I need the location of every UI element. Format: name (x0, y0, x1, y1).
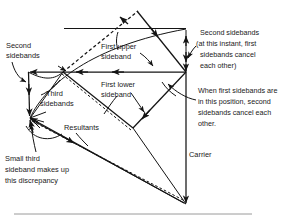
note-first-sidebands-line2: in this position, second (198, 97, 271, 106)
label-carrier: Carrier (189, 150, 212, 159)
note-second-sidebands-line3: sidebands cancel (200, 50, 256, 59)
note-first-sidebands-line3: sidebands cancel each (198, 108, 271, 117)
leader-second-sidebands-left (12, 62, 26, 82)
label-first-lower-sideband-line2: sideband (101, 90, 131, 99)
label-second-sidebands-left-line2: sidebands (6, 51, 40, 60)
label-small-third-line1: Small third (5, 154, 40, 163)
note-first-sidebands-line4: other. (198, 119, 216, 128)
note-first-sidebands-line1: When first sidebands are (198, 86, 278, 95)
label-third-sidebands-line2: sidebands (40, 99, 74, 108)
label-small-third-line2: sideband makes up (5, 165, 69, 174)
sideband-vector-diagram: Second sidebands First upper sideband Fi… (0, 0, 296, 219)
first-upper-sideband-vector (137, 11, 186, 72)
leader-first-lower-sideband (131, 93, 144, 112)
label-first-upper-sideband-line1: First upper (101, 42, 137, 51)
resultant-vector-secondary (30, 119, 186, 204)
label-second-sidebands-left-line1: Second (6, 41, 31, 50)
leader-first-upper-sideband (140, 53, 153, 66)
label-first-upper-sideband-line2: sideband (101, 52, 131, 61)
note-second-sidebands-line2: (at this instant, first (196, 39, 256, 48)
note-second-sidebands-line1: Second sidebands (200, 28, 260, 37)
mid-vertex-arc (28, 72, 63, 78)
label-resultants: Resultants (64, 123, 99, 132)
diagram-labels: Second sidebands First upper sideband Fi… (5, 28, 278, 185)
leader-second-sidebands-note (188, 46, 196, 58)
label-third-sidebands-line1: Third (46, 89, 63, 98)
first-upper-sideband-arrow-2 (120, 17, 128, 24)
leader-horizontal-tick (58, 66, 66, 71)
label-first-lower-sideband-line1: First lower (101, 80, 136, 89)
lower-triangle-edge (133, 128, 186, 204)
leader-small-third-sideband (31, 124, 36, 152)
label-small-third-line3: this discrepancy (5, 176, 58, 185)
first-lower-sideband-vector (133, 72, 186, 128)
note-second-sidebands-line4: each other) (200, 61, 236, 70)
